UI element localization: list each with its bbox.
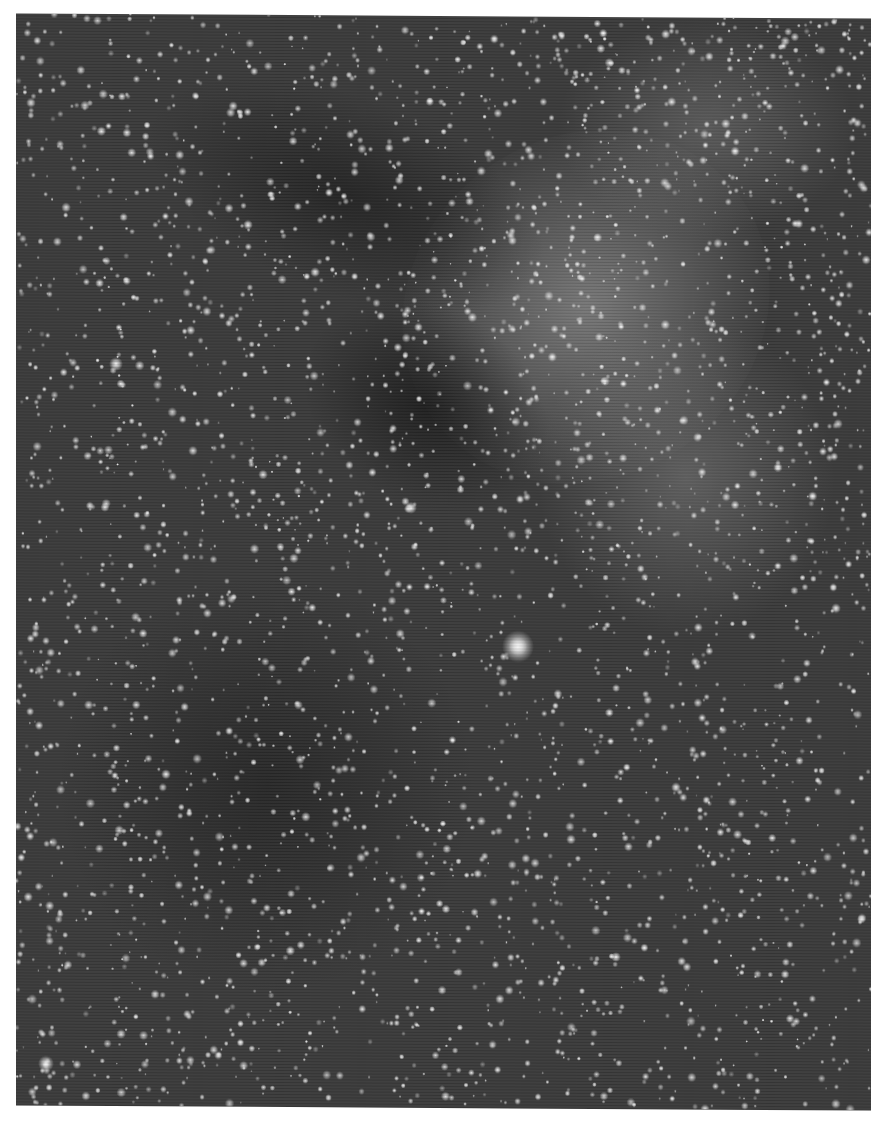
star-field-photo [16, 13, 871, 1110]
stars-layer [16, 13, 871, 1110]
